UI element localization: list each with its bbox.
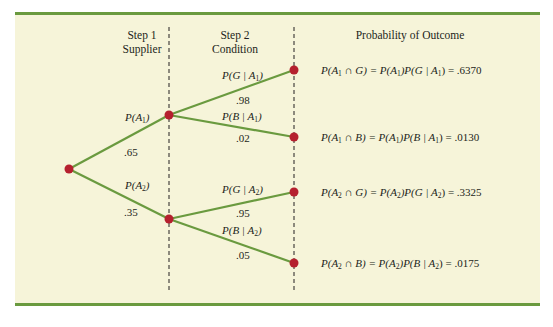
branch-a2: [69, 169, 169, 219]
label-p-a1: P(A1): [125, 111, 150, 127]
label-p-g-a2: P(G | A2): [222, 183, 263, 199]
label-p-b-a1: P(B | A1): [222, 110, 262, 126]
tree-diagram: [0, 0, 553, 327]
label-p-a2: P(A2): [125, 179, 150, 195]
branch-a1: [69, 115, 169, 169]
value-b-a2: .05: [236, 249, 250, 262]
node-a1: [165, 111, 174, 120]
node-a2: [165, 215, 174, 224]
value-a2: .35: [124, 206, 138, 219]
node-a1-g: [290, 66, 299, 75]
node-root: [65, 165, 74, 174]
outcome-a1-b: P(A1 ∩ B) = P(A1)P(B | A1) = .0130: [321, 131, 479, 147]
label-p-g-a1: P(G | A1): [222, 69, 263, 85]
value-g-a1: .98: [236, 94, 250, 107]
outcome-a2-g: P(A2 ∩ G) = P(A2)P(G | A2) = .3325: [321, 186, 482, 202]
outcome-a2-b: P(A2 ∩ B) = P(A2)P(B | A2) = .0175: [321, 257, 479, 273]
node-a1-b: [290, 133, 299, 142]
label-p-b-a2: P(B | A2): [222, 224, 262, 240]
value-a1: .65: [124, 146, 138, 159]
outcome-a1-g: P(A1 ∩ G) = P(A1)P(G | A1) = .6370: [321, 64, 482, 80]
value-g-a2: .95: [236, 207, 250, 220]
node-a2-g: [290, 188, 299, 197]
node-a2-b: [290, 259, 299, 268]
value-b-a1: .02: [236, 132, 250, 145]
